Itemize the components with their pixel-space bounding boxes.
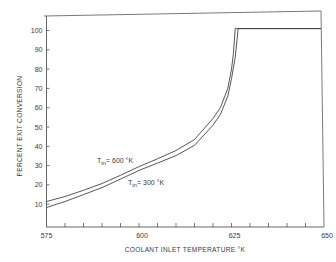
y-tick-label: 100: [31, 27, 43, 34]
y-axis-title: PERCENT EXIT CONVERSION: [16, 76, 23, 177]
x-tick-label: 650: [321, 232, 333, 239]
y-tick-label: 70: [35, 85, 43, 92]
x-axis-title: COOLANT INLET TEMPERATURE °K: [125, 246, 246, 253]
x-ticks: 575600625650: [41, 223, 333, 239]
series-tin-600: [47, 29, 322, 202]
x-tick-label: 600: [136, 232, 148, 239]
y-tick-label: 30: [35, 162, 43, 169]
series-lines: [47, 29, 322, 208]
series-tin-300: [47, 29, 322, 208]
y-tick-label: 10: [35, 201, 43, 208]
y-tick-label: 20: [35, 181, 43, 188]
annotation-tin-300: Tin= 300 °K: [128, 179, 164, 188]
x-tick-label: 625: [229, 232, 241, 239]
y-tick-label: 60: [35, 104, 43, 111]
conversion-chart: 102030405060708090100 575600625650 PERCE…: [0, 0, 336, 262]
x-tick-label: 575: [41, 232, 53, 239]
y-tick-label: 80: [35, 66, 43, 73]
y-tick-label: 50: [35, 124, 43, 131]
annotation-tin-600: Tin= 600 °K: [97, 157, 133, 166]
y-tick-label: 90: [35, 46, 43, 53]
y-tick-label: 40: [35, 143, 43, 150]
plot-frame: [44, 11, 324, 227]
